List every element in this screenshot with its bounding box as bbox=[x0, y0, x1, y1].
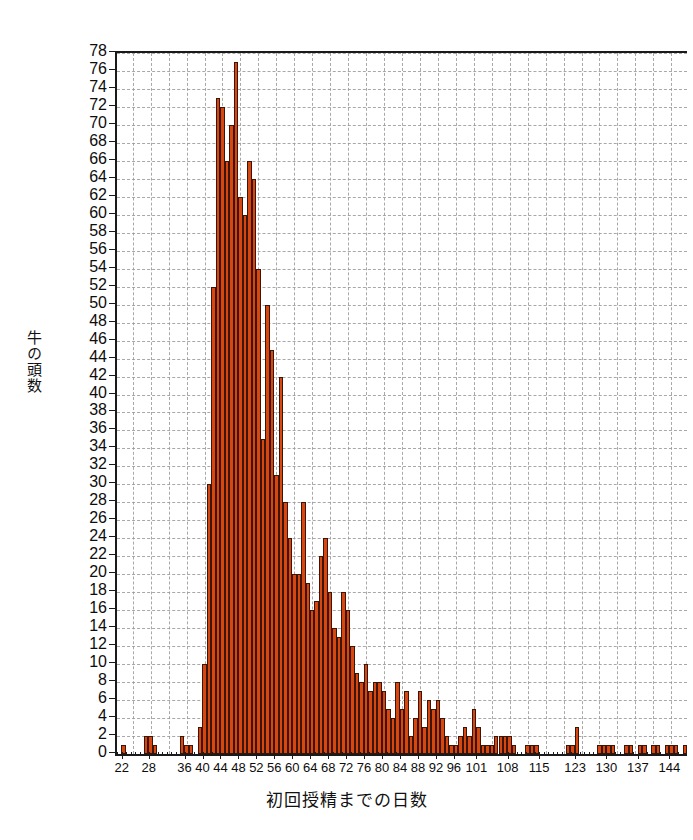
y-tick-label: 60 bbox=[63, 205, 107, 221]
x-tick-mark bbox=[597, 752, 598, 756]
x-tick-mark bbox=[633, 752, 634, 756]
x-tick-mark bbox=[458, 752, 459, 756]
x-tick-mark bbox=[176, 752, 177, 756]
x-tick-label: 28 bbox=[129, 761, 169, 775]
y-tick-mark bbox=[109, 446, 116, 447]
y-tick-label: 46 bbox=[63, 331, 107, 347]
y-tick-label: 52 bbox=[63, 277, 107, 293]
x-tick-mark bbox=[351, 752, 352, 756]
x-tick-mark bbox=[669, 752, 670, 759]
y-tick-label: 44 bbox=[63, 349, 107, 365]
x-tick-mark bbox=[422, 752, 423, 756]
x-tick-mark bbox=[606, 752, 607, 759]
x-tick-mark bbox=[508, 752, 509, 759]
x-tick-mark bbox=[243, 752, 244, 756]
x-tick-label: 115 bbox=[519, 761, 559, 775]
y-tick-mark bbox=[109, 321, 116, 322]
x-tick-mark bbox=[382, 752, 383, 759]
x-tick-mark bbox=[324, 752, 325, 756]
y-tick-mark bbox=[109, 410, 116, 411]
x-tick-mark bbox=[467, 752, 468, 756]
x-tick-mark bbox=[521, 752, 522, 756]
x-tick-mark bbox=[131, 752, 132, 756]
histogram-figure: 牛の頭数 02468101214161820222426283032343638… bbox=[0, 0, 693, 840]
x-tick-mark bbox=[490, 752, 491, 756]
y-tick-mark bbox=[109, 339, 116, 340]
x-tick-mark bbox=[629, 752, 630, 756]
x-tick-mark bbox=[360, 752, 361, 756]
y-tick-mark bbox=[109, 393, 116, 394]
y-tick-mark bbox=[109, 141, 116, 142]
x-tick-mark bbox=[203, 752, 204, 759]
y-tick-mark bbox=[109, 428, 116, 429]
x-tick-mark bbox=[333, 752, 334, 756]
x-tick-mark bbox=[615, 752, 616, 756]
x-tick-mark bbox=[279, 752, 280, 756]
y-tick-label: 38 bbox=[63, 402, 107, 418]
x-tick-mark bbox=[144, 752, 145, 756]
x-tick-mark bbox=[283, 752, 284, 756]
y-axis-title: 牛の頭数 bbox=[14, 330, 42, 394]
x-tick-mark bbox=[261, 752, 262, 756]
x-tick-mark bbox=[373, 752, 374, 756]
x-tick-mark bbox=[369, 752, 370, 756]
y-tick-label: 28 bbox=[63, 492, 107, 508]
y-tick-label: 26 bbox=[63, 510, 107, 526]
x-axis-title: 初回授精までの日数 bbox=[0, 786, 693, 811]
x-tick-mark bbox=[140, 752, 141, 756]
y-tick-label: 58 bbox=[63, 223, 107, 239]
x-tick-mark bbox=[355, 752, 356, 756]
plot-area bbox=[115, 51, 687, 756]
x-tick-mark bbox=[315, 752, 316, 756]
x-tick-mark bbox=[387, 752, 388, 756]
x-tick-mark bbox=[167, 752, 168, 756]
y-tick-label: 54 bbox=[63, 259, 107, 275]
x-tick-mark bbox=[548, 752, 549, 756]
x-tick-mark bbox=[512, 752, 513, 756]
x-tick-mark bbox=[171, 752, 172, 756]
x-tick-mark bbox=[476, 752, 477, 759]
x-tick-mark bbox=[149, 752, 150, 759]
x-tick-mark bbox=[319, 752, 320, 756]
x-tick-mark bbox=[198, 752, 199, 756]
x-tick-mark bbox=[117, 752, 118, 756]
y-tick-label: 72 bbox=[63, 97, 107, 113]
y-tick-mark bbox=[109, 285, 116, 286]
x-tick-mark bbox=[472, 752, 473, 756]
x-tick-mark bbox=[292, 752, 293, 759]
y-tick-label: 36 bbox=[63, 420, 107, 436]
y-tick-mark bbox=[109, 213, 116, 214]
x-tick-mark bbox=[571, 752, 572, 756]
y-tick-mark bbox=[109, 572, 116, 573]
y-tick-label: 50 bbox=[63, 295, 107, 311]
x-tick-mark bbox=[485, 752, 486, 756]
x-tick-mark bbox=[122, 752, 123, 759]
y-tick-mark bbox=[109, 482, 116, 483]
x-tick-mark bbox=[418, 752, 419, 759]
x-tick-mark bbox=[234, 752, 235, 756]
y-tick-mark bbox=[109, 608, 116, 609]
x-tick-mark bbox=[436, 752, 437, 759]
x-tick-mark bbox=[566, 752, 567, 756]
y-tick-mark bbox=[109, 500, 116, 501]
x-tick-mark bbox=[517, 752, 518, 756]
x-tick-mark bbox=[463, 752, 464, 756]
bar-series bbox=[117, 53, 687, 754]
x-tick-mark bbox=[481, 752, 482, 756]
y-tick-label: 66 bbox=[63, 151, 107, 167]
x-tick-mark bbox=[310, 752, 311, 759]
y-tick-label: 78 bbox=[63, 43, 107, 59]
y-tick-label: 64 bbox=[63, 169, 107, 185]
x-tick-mark bbox=[225, 752, 226, 756]
y-tick-mark bbox=[109, 554, 116, 555]
y-tick-mark bbox=[109, 105, 116, 106]
y-tick-mark bbox=[109, 177, 116, 178]
x-tick-mark bbox=[396, 752, 397, 756]
x-tick-mark bbox=[665, 752, 666, 756]
x-tick-mark bbox=[378, 752, 379, 756]
x-tick-mark bbox=[530, 752, 531, 756]
x-tick-mark bbox=[216, 752, 217, 756]
y-tick-mark bbox=[109, 680, 116, 681]
x-tick-mark bbox=[562, 752, 563, 756]
x-tick-mark bbox=[535, 752, 536, 756]
